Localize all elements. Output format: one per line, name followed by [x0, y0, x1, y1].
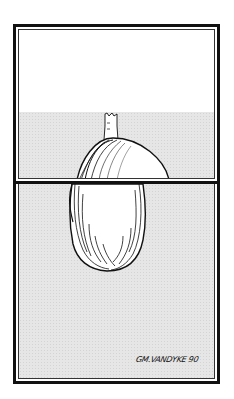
outer-frame-lower: GM.VANDYKE 90 [13, 184, 220, 384]
artist-signature: GM.VANDYKE 90 [135, 355, 199, 364]
siphon-head [104, 113, 118, 140]
illustration-panel [18, 29, 215, 179]
shell-body [77, 138, 169, 179]
clam-illustration-lower [19, 184, 216, 380]
textured-background-lower: GM.VANDYKE 90 [18, 184, 215, 379]
clam-illustration [19, 30, 215, 179]
